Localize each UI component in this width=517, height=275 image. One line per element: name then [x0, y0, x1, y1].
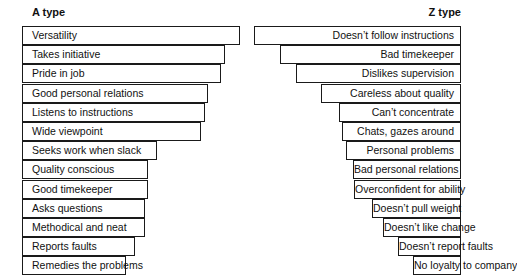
a-type-heading: A type [32, 6, 65, 18]
a-type-item: Wide viewpoint [22, 122, 201, 141]
a-type-item: Pride in job [22, 64, 221, 83]
z-type-item: Overconfident for ability [354, 180, 461, 199]
a-type-item: Quality conscious [22, 160, 148, 179]
a-type-item: Remedies the problems [22, 256, 126, 275]
z-type-item: Bad personal relations [353, 160, 461, 179]
z-type-item: Careless about quality [321, 84, 461, 103]
a-type-item: Methodical and neat [22, 218, 145, 237]
a-type-item: Listens to instructions [22, 103, 205, 122]
a-type-item: Seeks work when slack [22, 141, 157, 160]
z-type-item: Dislikes supervision [296, 64, 461, 83]
z-type-item: Bad timekeeper [280, 45, 461, 64]
z-type-item: Doesn’t pull weight [372, 199, 461, 218]
z-type-item: Chats, gazes around [342, 122, 461, 141]
a-type-item: Reports faults [22, 237, 135, 256]
z-type-item: Can’t concentrate [339, 103, 461, 122]
a-type-item: Takes initiative [22, 45, 225, 64]
z-type-item: Personal problems [346, 141, 461, 160]
a-type-item: Good timekeeper [22, 180, 148, 199]
a-type-item: Versatility [22, 26, 240, 45]
a-type-item: Good personal relations [22, 84, 208, 103]
z-type-item: Doesn’t follow instructions [254, 26, 461, 45]
z-type-heading: Z type [429, 6, 461, 18]
z-type-item: Doesn’t like change [383, 218, 461, 237]
z-type-item: No loyalty to company [413, 256, 461, 275]
a-type-item: Asks questions [22, 199, 145, 218]
z-type-item: Doesn’t report faults [398, 237, 461, 256]
